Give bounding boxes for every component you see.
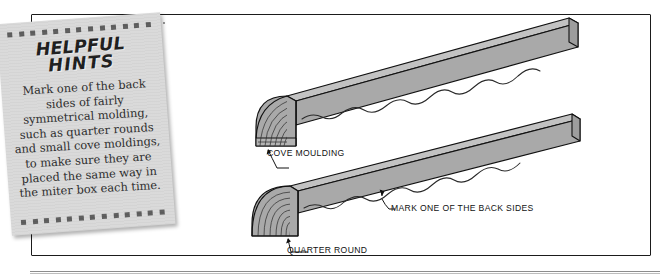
illustration-canvas: COVE MOULDING QUARTER ROUND MARK ONE OF … — [0, 0, 663, 277]
note-dot-border-bottom — [21, 209, 165, 225]
note-title: HELPFUL HINTS — [0, 32, 164, 78]
note-body-text: Mark one of the back sides of fairly sym… — [8, 76, 167, 202]
quarter-round-board — [252, 114, 580, 252]
page-footer-rule — [30, 271, 660, 272]
helpful-hints-note: HELPFUL HINTS Mark one of the back sides… — [0, 12, 176, 235]
note-paper: HELPFUL HINTS Mark one of the back sides… — [0, 12, 176, 235]
page-footer-rule-shadow — [30, 273, 660, 274]
label-quarter-round: QUARTER ROUND — [287, 245, 367, 255]
label-cove-moulding: COVE MOULDING — [267, 148, 345, 158]
label-mark-back-sides: MARK ONE OF THE BACK SIDES — [391, 203, 534, 213]
